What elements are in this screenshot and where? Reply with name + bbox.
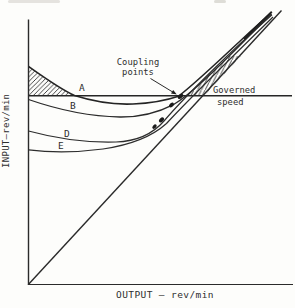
coupling-points-arrowhead-icon bbox=[171, 90, 177, 95]
governed-speed-label-line1: Governed bbox=[213, 85, 255, 95]
coupling-marker-D bbox=[158, 116, 165, 123]
y-axis-label: INPUT—rev/min bbox=[1, 73, 14, 189]
scanned-figure-page: INPUT—rev/min OUTPUT — rev/min A B D E C… bbox=[0, 0, 295, 308]
unity-diagonal-line bbox=[29, 11, 282, 285]
governed-speed-label-line2: speed bbox=[217, 97, 243, 107]
coupling-points-line2: points bbox=[109, 68, 167, 78]
curve-label-E: E bbox=[58, 140, 64, 151]
curve-label-D: D bbox=[64, 128, 70, 139]
x-axis-label: OUTPUT — rev/min bbox=[95, 289, 235, 300]
coupling-points-arrow-line bbox=[151, 79, 174, 93]
coupling-points-annotation: Coupling points bbox=[109, 58, 167, 77]
curve-label-B: B bbox=[70, 100, 76, 111]
figure-canvas bbox=[0, 0, 295, 308]
curve-label-A: A bbox=[79, 82, 85, 93]
curve-D-path bbox=[29, 15, 273, 142]
